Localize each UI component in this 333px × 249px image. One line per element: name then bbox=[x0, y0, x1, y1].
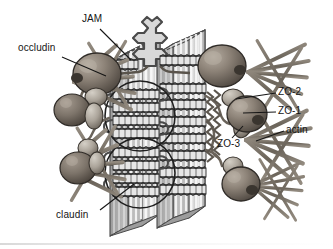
label-zo3: ZO-3 bbox=[217, 139, 240, 149]
label-occludin: occludin bbox=[18, 43, 56, 53]
label-actin: actin bbox=[286, 125, 308, 135]
label-jam: JAM bbox=[82, 14, 102, 24]
figure-baseline-rule bbox=[0, 243, 333, 245]
label-zo1: ZO-1 bbox=[278, 106, 301, 116]
label-claudin: claudin bbox=[56, 210, 88, 220]
zo1-body bbox=[227, 96, 267, 132]
tight-junction-diagram: JAM occludin ZO-2 ZO-1 actin ZO-3 claudi… bbox=[0, 0, 333, 249]
diagram-canvas bbox=[0, 0, 333, 249]
occludin-complex-right bbox=[198, 45, 246, 87]
label-zo2: ZO-2 bbox=[278, 87, 301, 97]
